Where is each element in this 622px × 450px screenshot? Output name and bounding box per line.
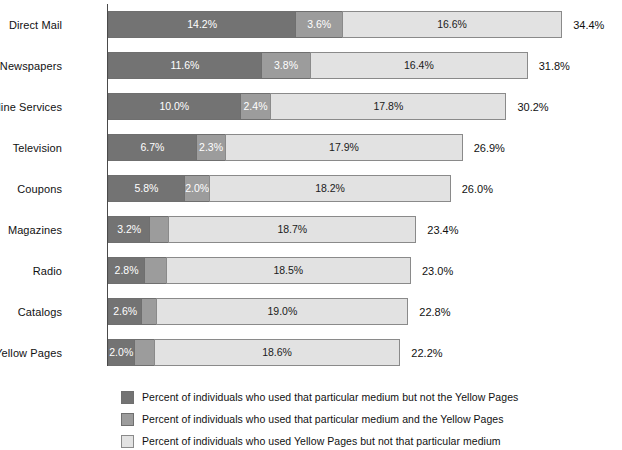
bar-segment: 2.6% xyxy=(108,298,142,325)
category-label: Newspapers xyxy=(0,60,62,72)
bar-row: Catalogs2.6%1.219.0%22.8% xyxy=(0,298,622,325)
bar-row: Direct Mail14.2%3.6%16.6%34.4% xyxy=(0,11,622,38)
bar-total-label: 26.9% xyxy=(474,142,505,154)
bar-segment: 19.0% xyxy=(156,298,408,325)
stacked-bar: 6.7%2.3%17.9% xyxy=(108,134,465,161)
category-label: Television xyxy=(0,142,62,154)
category-label: Direct Mail xyxy=(0,19,62,31)
chart-legend: Percent of individuals who used that par… xyxy=(121,386,591,450)
bar-segment-value: 11.6% xyxy=(170,60,199,71)
bar-segment-value: 5.8% xyxy=(134,183,158,194)
bar-row: Television6.7%2.3%17.9%26.9% xyxy=(0,134,622,161)
bar-segment: 6.7% xyxy=(108,134,197,161)
legend-label: Percent of individuals who used Yellow P… xyxy=(142,435,501,447)
stacked-bar: 2.0%1.618.6% xyxy=(108,339,402,366)
bar-segment-value: 14.2% xyxy=(187,19,217,30)
bar-segment-value: 17.8% xyxy=(374,101,404,112)
stacked-bar: 2.8%1.718.5% xyxy=(108,257,413,284)
bar-segment: 1.6 xyxy=(134,339,155,366)
stacked-bar: 14.2%3.6%16.6% xyxy=(108,11,564,38)
stacked-bar-chart: Direct Mail14.2%3.6%16.6%34.4%Newspapers… xyxy=(0,0,622,450)
bar-segment: 16.4% xyxy=(310,52,527,79)
category-label: Magazines xyxy=(0,224,62,236)
bar-segment: 1.7 xyxy=(144,257,167,284)
bar-segment: 17.8% xyxy=(270,93,506,120)
category-label: Online Services xyxy=(0,101,62,113)
bar-segment: 16.6% xyxy=(342,11,562,38)
category-label: Catalogs xyxy=(0,306,62,318)
bar-segment: 3.8% xyxy=(261,52,311,79)
legend-item: Percent of individuals who used Yellow P… xyxy=(121,430,591,450)
bar-segment: 18.7% xyxy=(168,216,416,243)
bar-segment-value: 2.6% xyxy=(113,306,137,317)
legend-item: Percent of individuals who used that par… xyxy=(121,386,591,408)
bar-row: Internet Yellow Pages2.0%1.618.6%22.2% xyxy=(0,339,622,366)
bar-segment: 3.6% xyxy=(295,11,343,38)
bar-segment: 18.2% xyxy=(209,175,450,202)
bar-segment-value: 2.8% xyxy=(115,265,139,276)
bar-row: Coupons5.8%2.0%18.2%26.0% xyxy=(0,175,622,202)
bar-segment: 2.0% xyxy=(184,175,211,202)
bar-segment: 11.6% xyxy=(108,52,262,79)
bar-segment-value: 6.7% xyxy=(140,142,164,153)
bar-segment: 1.5 xyxy=(149,216,169,243)
bar-segment: 18.6% xyxy=(154,339,401,366)
stacked-bar: 11.6%3.8%16.4% xyxy=(108,52,530,79)
stacked-bar: 2.6%1.219.0% xyxy=(108,298,410,325)
bar-segment-value: 2.0% xyxy=(185,183,209,194)
bar-segment-value: 18.7% xyxy=(277,224,307,235)
bar-total-label: 34.4% xyxy=(573,19,604,31)
bar-segment: 1.2 xyxy=(141,298,157,325)
bar-row: Newspapers11.6%3.8%16.4%31.8% xyxy=(0,52,622,79)
bar-total-label: 23.0% xyxy=(422,265,453,277)
bar-row: Radio2.8%1.718.5%23.0% xyxy=(0,257,622,284)
category-label: Coupons xyxy=(0,183,62,195)
bar-segment-value: 18.5% xyxy=(273,265,303,276)
bar-segment: 2.8% xyxy=(108,257,145,284)
bar-segment-value: 17.9% xyxy=(329,142,359,153)
bar-segment-value: 16.6% xyxy=(437,19,467,30)
legend-swatch-icon xyxy=(121,435,134,448)
bar-segment: 5.8% xyxy=(108,175,185,202)
bar-segment-value: 3.6% xyxy=(307,19,331,30)
plot-area: Direct Mail14.2%3.6%16.6%34.4%Newspapers… xyxy=(0,0,622,375)
legend-item: Percent of individuals who used that par… xyxy=(121,408,591,430)
bar-segment: 18.5% xyxy=(166,257,411,284)
legend-label: Percent of individuals who used that par… xyxy=(142,391,518,403)
bar-segment-value: 3.2% xyxy=(117,224,141,235)
bar-total-label: 26.0% xyxy=(462,183,493,195)
stacked-bar: 10.0%2.4%17.8% xyxy=(108,93,508,120)
bar-row: Magazines3.2%1.518.7%23.4% xyxy=(0,216,622,243)
bar-segment-value: 16.4% xyxy=(404,60,434,71)
bar-row: Online Services10.0%2.4%17.8%30.2% xyxy=(0,93,622,120)
category-label: Internet Yellow Pages xyxy=(0,347,62,359)
bar-total-label: 30.2% xyxy=(517,101,548,113)
bar-segment: 2.4% xyxy=(240,93,272,120)
bar-segment-value: 19.0% xyxy=(267,306,297,317)
bar-segment-value: 2.0% xyxy=(109,347,133,358)
bar-segment: 17.9% xyxy=(225,134,462,161)
bar-total-label: 31.8% xyxy=(539,60,570,72)
bar-segment-value: 10.0% xyxy=(159,101,189,112)
bar-segment: 2.0% xyxy=(108,339,135,366)
bar-segment: 14.2% xyxy=(108,11,296,38)
bar-segment-value: 2.4% xyxy=(244,101,268,112)
bar-segment-value: 18.6% xyxy=(262,347,292,358)
bar-segment-value: 2.3% xyxy=(199,142,223,153)
legend-swatch-icon xyxy=(121,413,134,426)
stacked-bar: 5.8%2.0%18.2% xyxy=(108,175,453,202)
legend-swatch-icon xyxy=(121,391,134,404)
bar-total-label: 22.8% xyxy=(419,306,450,318)
bar-total-label: 22.2% xyxy=(411,347,442,359)
legend-label: Percent of individuals who used that par… xyxy=(142,413,504,425)
bar-segment: 3.2% xyxy=(108,216,150,243)
bar-segment: 10.0% xyxy=(108,93,241,120)
bar-segment: 2.3% xyxy=(196,134,226,161)
stacked-bar: 3.2%1.518.7% xyxy=(108,216,418,243)
bar-segment-value: 3.8% xyxy=(274,60,298,71)
category-label: Radio xyxy=(0,265,62,277)
bar-segment-value: 18.2% xyxy=(315,183,345,194)
bar-total-label: 23.4% xyxy=(427,224,458,236)
